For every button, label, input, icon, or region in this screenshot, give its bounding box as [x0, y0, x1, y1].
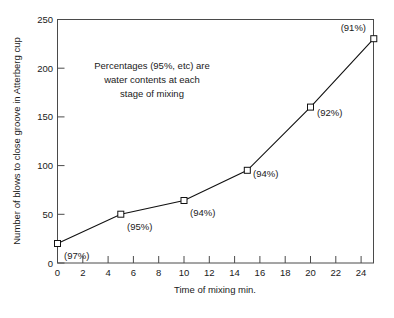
y-tick-label: 50: [42, 209, 53, 220]
annotation-line: Percentages (95%, etc) are: [94, 60, 210, 71]
y-axis-tick-labels: 250 200 150 100 50 0: [37, 14, 53, 269]
data-point-marker[interactable]: [118, 211, 124, 217]
data-point-marker[interactable]: [308, 104, 314, 110]
point-label: (94%): [253, 168, 278, 179]
y-tick-label: 150: [37, 111, 53, 122]
x-tick-label: 6: [131, 267, 136, 278]
x-tick-label: 12: [204, 267, 215, 278]
data-point-marker[interactable]: [181, 198, 187, 204]
plot-frame: [58, 20, 374, 264]
x-tick-label: 16: [255, 267, 266, 278]
y-axis-ticks: [58, 20, 65, 264]
point-label: (95%): [127, 221, 152, 232]
x-axis-title: Time of mixing min.: [174, 284, 256, 295]
point-label: (92%): [317, 107, 342, 118]
x-tick-label: 8: [156, 267, 161, 278]
x-tick-label: 14: [229, 267, 240, 278]
annotation-line: water contents at each: [103, 74, 200, 85]
x-tick-label: 0: [55, 267, 60, 278]
x-tick-label: 24: [356, 267, 367, 278]
y-tick-label: 100: [37, 160, 53, 171]
line-chart-canvas: 250 200 150 100 50 0 0 2 4: [0, 0, 394, 318]
x-tick-label: 4: [105, 267, 110, 278]
data-point-marker[interactable]: [55, 241, 61, 247]
point-label: (94%): [190, 207, 215, 218]
point-label: (91%): [341, 22, 366, 33]
chart-figure: 250 200 150 100 50 0 0 2 4: [0, 0, 394, 318]
x-axis-tick-labels: 0 2 4 6 8 10 12 14 16 18 20 22 24: [55, 267, 367, 278]
x-tick-label: 10: [179, 267, 190, 278]
x-tick-label: 18: [280, 267, 291, 278]
chart-annotation-note: Percentages (95%, etc) are water content…: [94, 60, 210, 99]
annotation-line: stage of mixing: [120, 88, 184, 99]
y-axis-title: Number of blows to close groove in Atter…: [11, 37, 22, 245]
data-point-marker[interactable]: [244, 167, 250, 173]
y-tick-label: 250: [37, 14, 53, 25]
y-tick-label: 200: [37, 63, 53, 74]
x-tick-label: 2: [80, 267, 85, 278]
y-tick-label: 0: [48, 258, 53, 269]
data-point-labels: (97%) (95%) (94%) (94%) (92%) (91%): [64, 22, 366, 261]
x-tick-label: 20: [305, 267, 316, 278]
x-axis-ticks: [58, 256, 362, 263]
data-point-marker[interactable]: [371, 36, 377, 42]
x-tick-label: 22: [331, 267, 342, 278]
point-label: (97%): [64, 250, 89, 261]
